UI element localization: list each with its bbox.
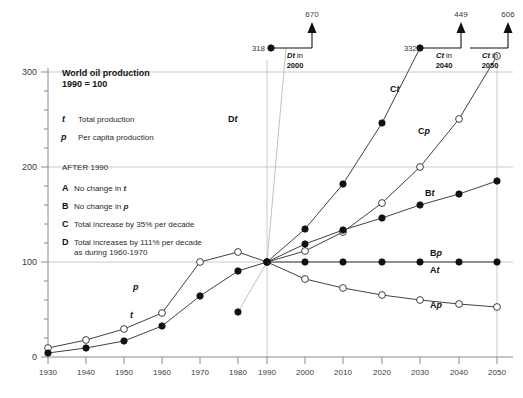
point-Bt-2000 [302, 241, 308, 247]
point-t-1960 [159, 323, 165, 329]
legend-key-t-symbol: t [62, 114, 66, 124]
annotation-ct2050-caption: Ct in [482, 51, 498, 60]
annotation-ct2040-value: 332 [404, 44, 418, 53]
legend-key-t-text: Total production [78, 115, 134, 124]
series-p-historical [45, 249, 267, 352]
annotation-dt-2000: 318 670 Dt in 2000 [252, 10, 320, 70]
point-Bt-2030 [417, 202, 423, 208]
point-Ct-2010 [340, 181, 346, 187]
point-At-2020 [379, 259, 385, 265]
point-Ct-2020 [379, 120, 385, 126]
point-Cp-2040 [456, 116, 463, 123]
point-At-2050 [494, 259, 500, 265]
point-At-2000 [302, 259, 308, 265]
point-Bt-2020 [379, 215, 385, 221]
point-p-1970 [197, 259, 204, 266]
curve-label-t-historical: t [130, 310, 134, 320]
point-Ap-2010 [340, 285, 347, 292]
point-Ap-2040 [456, 301, 463, 308]
x-tick-label-1970: 1970 [191, 368, 209, 377]
point-At-2010 [340, 259, 346, 265]
x-tick-label-2040: 2040 [450, 368, 468, 377]
y-tick-label-0: 0 [32, 352, 37, 362]
x-tick-label-2000: 2000 [296, 368, 314, 377]
scenario-A-key: A [62, 183, 69, 193]
point-Bt-2040 [456, 191, 462, 197]
curve-label-Dt: Dt [228, 114, 239, 124]
point-p-1940 [83, 337, 90, 344]
curve-label-Cp: Cp [418, 126, 431, 136]
x-tick-label-1950: 1950 [115, 368, 133, 377]
point-p-1980 [235, 249, 242, 256]
scenario-B-text: No change in p [74, 202, 128, 211]
x-tick-label-2050: 2050 [488, 368, 506, 377]
point-Ap-2030 [417, 297, 424, 304]
point-Cp-2000 [302, 248, 309, 255]
annotation-dt-caption: Dt in [287, 51, 303, 60]
y-tick-labels: 300 200 100 0 [22, 67, 37, 362]
annotation-ct-2050: 606 Ct in 2050 [470, 10, 515, 70]
curve-label-p-historical: p [132, 282, 139, 292]
point-t-1940 [83, 345, 89, 351]
chart-root: 300 200 100 0 1930 1940 1950 1960 [0, 0, 523, 398]
curve-labels: Dt Ct Cp Bt Bp At Ap t p [130, 84, 443, 320]
curve-label-Bp: Bp [430, 248, 443, 258]
point-Bt-2050 [494, 178, 500, 184]
series-At-Bp-flat [264, 259, 501, 266]
point-Ap-2000 [302, 276, 309, 283]
point-Ct-2030 [417, 45, 423, 51]
legend-key-p-symbol: p [60, 132, 67, 142]
annotation-dt-value: 318 [252, 44, 266, 53]
x-ticks [48, 357, 497, 364]
point-Bt-2010 [340, 227, 346, 233]
point-At-2040 [456, 259, 462, 265]
x-tick-label-1990: 1990 [258, 368, 276, 377]
point-Ap-2020 [379, 292, 386, 299]
x-tick-label-1940: 1940 [77, 368, 95, 377]
chart-title: World oil production [62, 68, 150, 78]
curve-label-Ap: Ap [430, 300, 443, 310]
point-t-1980 [235, 268, 241, 274]
point-Cp-2020 [379, 200, 386, 207]
annotation-ct2040-caption-year: 2040 [436, 61, 453, 70]
annotation-ct2050-caption-year: 2050 [482, 61, 499, 70]
y-tick-label-200: 200 [22, 162, 37, 172]
annotation-ct2040-arrow-value: 449 [454, 10, 468, 19]
arrow-head-dt [308, 22, 317, 33]
y-ticks [41, 72, 48, 357]
scenario-C-key: C [62, 219, 69, 229]
arrow-head-ct2040 [457, 22, 466, 33]
after-1990-heading: AFTER 1990 [62, 163, 109, 172]
scenario-C-text: Total increase by 35% per decade [74, 220, 195, 229]
scenario-A-text: No change in t [74, 184, 126, 193]
point-Ct-2000 [302, 226, 308, 232]
annotation-dt-arrow-value: 670 [305, 10, 319, 19]
point-Dt-1980 [235, 309, 241, 315]
legend-key-p-text: Per capita production [78, 133, 154, 142]
x-tick-label-2020: 2020 [373, 368, 391, 377]
curve-label-At: At [430, 265, 441, 275]
chart-subtitle: 1990 = 100 [62, 79, 107, 89]
annotation-ct2050-arrow-value: 606 [501, 10, 515, 19]
legend-block: World oil production 1990 = 100 t Total … [60, 68, 202, 257]
arrow-head-ct2050 [504, 22, 513, 33]
point-p-1960 [159, 310, 166, 317]
oil-production-chart: 300 200 100 0 1930 1940 1950 1960 [0, 0, 523, 398]
x-tick-label-1960: 1960 [153, 368, 171, 377]
point-At-2030 [417, 259, 423, 265]
curve-label-Ct: Ct [390, 84, 401, 94]
scenario-D-key: D [62, 237, 69, 247]
point-Ap-2050 [494, 304, 501, 311]
curve-label-Bt: Bt [425, 188, 436, 198]
x-tick-labels: 1930 1940 1950 1960 1970 1980 1990 2000 … [39, 368, 506, 377]
scenario-D-text-line2: as during 1960-1970 [74, 248, 148, 257]
x-tick-label-2010: 2010 [334, 368, 352, 377]
x-tick-label-1980: 1980 [229, 368, 247, 377]
y-tick-label-300: 300 [22, 67, 37, 77]
series-Dt [235, 48, 286, 315]
point-t-1930 [45, 350, 51, 356]
point-Dt-2000 [268, 45, 274, 51]
x-tick-label-1930: 1930 [39, 368, 57, 377]
point-t-1950 [121, 338, 127, 344]
x-tick-label-2030: 2030 [411, 368, 429, 377]
